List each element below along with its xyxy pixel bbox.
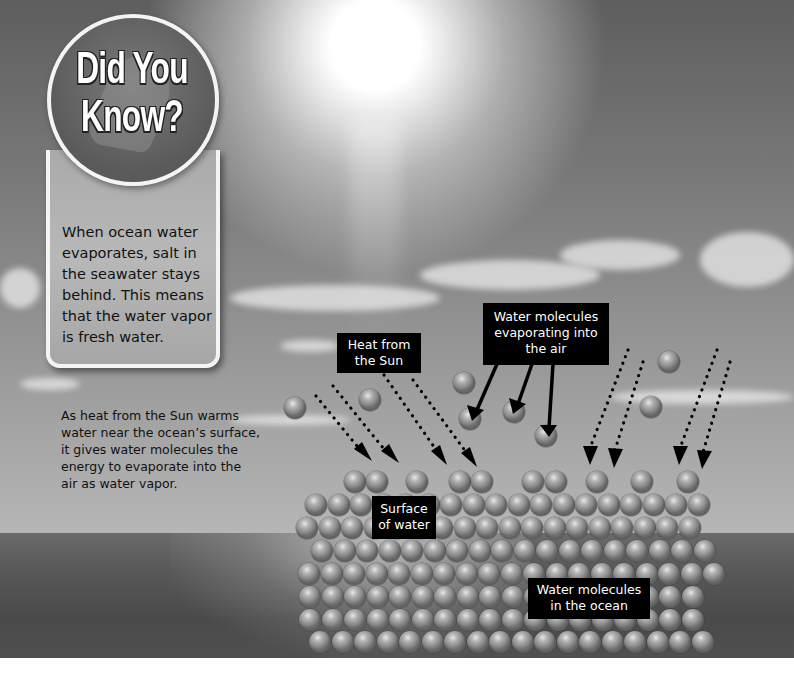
water-molecule-icon (485, 494, 507, 516)
water-molecule-icon (476, 517, 498, 539)
water-molecule-icon (688, 494, 710, 516)
cloud (0, 268, 40, 308)
water-molecule-icon (557, 631, 579, 653)
water-molecule-icon (412, 586, 434, 608)
water-molecule-icon (512, 631, 534, 653)
water-molecule-icon (299, 586, 321, 608)
water-molecule-icon (457, 609, 479, 631)
cloud (700, 232, 794, 287)
water-molecule-icon (389, 609, 411, 631)
water-molecule-icon (479, 609, 501, 631)
water-molecule-icon (356, 540, 378, 562)
water-molecule-icon (406, 471, 428, 493)
water-molecule-icon (457, 586, 479, 608)
label-surface-of-water: Surface of water (372, 496, 436, 539)
water-molecule-icon (659, 609, 681, 631)
water-molecule-icon (332, 631, 354, 653)
water-molecule-icon (367, 586, 389, 608)
water-molecule-icon (489, 631, 511, 653)
water-molecule-icon (309, 631, 331, 653)
water-molecule-icon (366, 563, 388, 585)
water-molecule-icon (424, 540, 446, 562)
water-molecule-icon (354, 631, 376, 653)
water-molecule-icon (647, 631, 669, 653)
water-molecule-icon (379, 540, 401, 562)
water-molecule-icon (604, 540, 626, 562)
water-molecule-icon (508, 494, 530, 516)
water-molecule-icon (299, 609, 321, 631)
water-molecule-icon (624, 631, 646, 653)
water-molecule-icon (322, 609, 344, 631)
label-heat-from-sun: Heat from the Sun (337, 333, 421, 373)
water-molecule-icon (581, 540, 603, 562)
cloud (20, 378, 80, 390)
water-molecule-icon (459, 408, 481, 430)
water-molecule-icon (399, 631, 421, 653)
caption-text: As heat from the Sun warms water near th… (61, 407, 261, 492)
label-molecules-in-ocean: Water molecules in the ocean (528, 578, 650, 619)
water-molecule-icon (530, 494, 552, 516)
water-molecule-icon (586, 471, 608, 493)
water-molecule-icon (566, 517, 588, 539)
water-molecule-icon (344, 609, 366, 631)
water-molecule-icon (631, 471, 653, 493)
water-molecule-icon (677, 471, 699, 493)
water-molecule-icon (545, 471, 567, 493)
cloud (230, 285, 440, 311)
water-molecule-icon (389, 586, 411, 608)
water-molecule-icon (502, 609, 524, 631)
water-molecule-icon (341, 517, 363, 539)
water-molecule-icon (359, 389, 381, 411)
water-molecule-icon (501, 563, 523, 585)
sun-icon (335, 5, 415, 85)
callout-body: When ocean water evaporates, salt in the… (62, 222, 212, 348)
water-molecule-icon (502, 586, 524, 608)
water-molecule-icon (467, 631, 489, 653)
water-molecule-icon (305, 494, 327, 516)
water-molecule-icon (456, 563, 478, 585)
water-molecule-icon (453, 372, 475, 394)
water-molecule-icon (682, 609, 704, 631)
water-molecule-icon (598, 494, 620, 516)
water-molecule-icon (679, 517, 701, 539)
water-molecule-icon (703, 563, 725, 585)
water-molecule-icon (575, 494, 597, 516)
water-molecule-icon (388, 563, 410, 585)
water-molecule-icon (444, 631, 466, 653)
water-molecule-icon (643, 494, 665, 516)
water-molecule-icon (478, 563, 500, 585)
water-molecule-icon (669, 631, 691, 653)
cloud (280, 340, 340, 352)
water-molecule-icon (671, 540, 693, 562)
water-molecule-icon (634, 517, 656, 539)
water-molecule-icon (522, 471, 544, 493)
water-molecule-icon (366, 471, 388, 493)
evaporation-diagram: Did You Know? When ocean water evaporate… (0, 0, 794, 678)
water-molecule-icon (296, 517, 318, 539)
water-molecule-icon (620, 494, 642, 516)
water-molecule-icon (298, 563, 320, 585)
cloud (560, 240, 680, 270)
water-molecule-icon (514, 540, 536, 562)
water-molecule-icon (491, 540, 513, 562)
water-molecule-icon (440, 494, 462, 516)
water-molecule-icon (534, 631, 556, 653)
water-molecule-icon (640, 396, 662, 418)
callout-title-line1: Did You (70, 44, 194, 92)
water-molecule-icon (535, 425, 557, 447)
water-molecule-icon (328, 494, 350, 516)
water-molecule-icon (656, 517, 678, 539)
water-molecule-icon (499, 517, 521, 539)
water-molecule-icon (463, 494, 485, 516)
water-molecule-icon (626, 540, 648, 562)
water-molecule-icon (579, 631, 601, 653)
water-molecule-icon (503, 401, 525, 423)
water-molecule-icon (334, 540, 356, 562)
water-molecule-icon (433, 563, 455, 585)
water-molecule-icon (449, 471, 471, 493)
water-molecule-icon (377, 631, 399, 653)
water-molecule-icon (659, 586, 681, 608)
water-molecule-icon (367, 609, 389, 631)
water-molecule-icon (469, 540, 491, 562)
water-molecule-icon (344, 471, 366, 493)
